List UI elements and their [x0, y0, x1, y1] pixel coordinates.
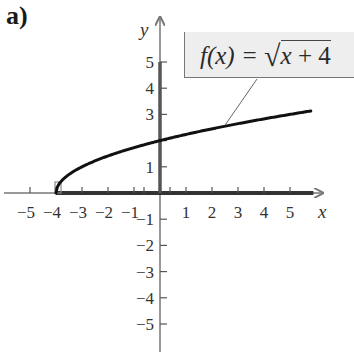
x-tick-label: 3 — [234, 203, 243, 222]
x-tick-label: 5 — [286, 203, 295, 222]
x-tick-label: 1 — [182, 203, 191, 222]
y-tick-label: −1 — [136, 210, 154, 229]
x-tick-label: 4 — [260, 203, 269, 222]
x-axis-label: x — [317, 201, 327, 222]
y-tick-label: −3 — [136, 263, 154, 282]
x-tick-label: −4 — [43, 203, 62, 222]
x-tick-label: −3 — [69, 203, 87, 222]
function-curve — [56, 79, 311, 193]
y-axis-label: y — [138, 19, 149, 40]
y-tick-label: −5 — [136, 315, 154, 334]
y-tick-label: 3 — [146, 105, 155, 124]
x-tick-label: −2 — [95, 203, 113, 222]
sqrt-curve — [56, 111, 311, 193]
y-tick-label: −2 — [136, 236, 154, 255]
callout-leader-line — [225, 79, 257, 125]
function-label: f(x) = √x + 4 — [200, 37, 331, 71]
y-tick-label: 5 — [146, 53, 155, 72]
x-tick-label: −5 — [17, 203, 35, 222]
y-tick-label: −4 — [136, 289, 155, 308]
y-tick-label: 4 — [146, 79, 155, 98]
x-tick-label: 2 — [208, 203, 217, 222]
y-tick-label: 1 — [146, 158, 155, 177]
